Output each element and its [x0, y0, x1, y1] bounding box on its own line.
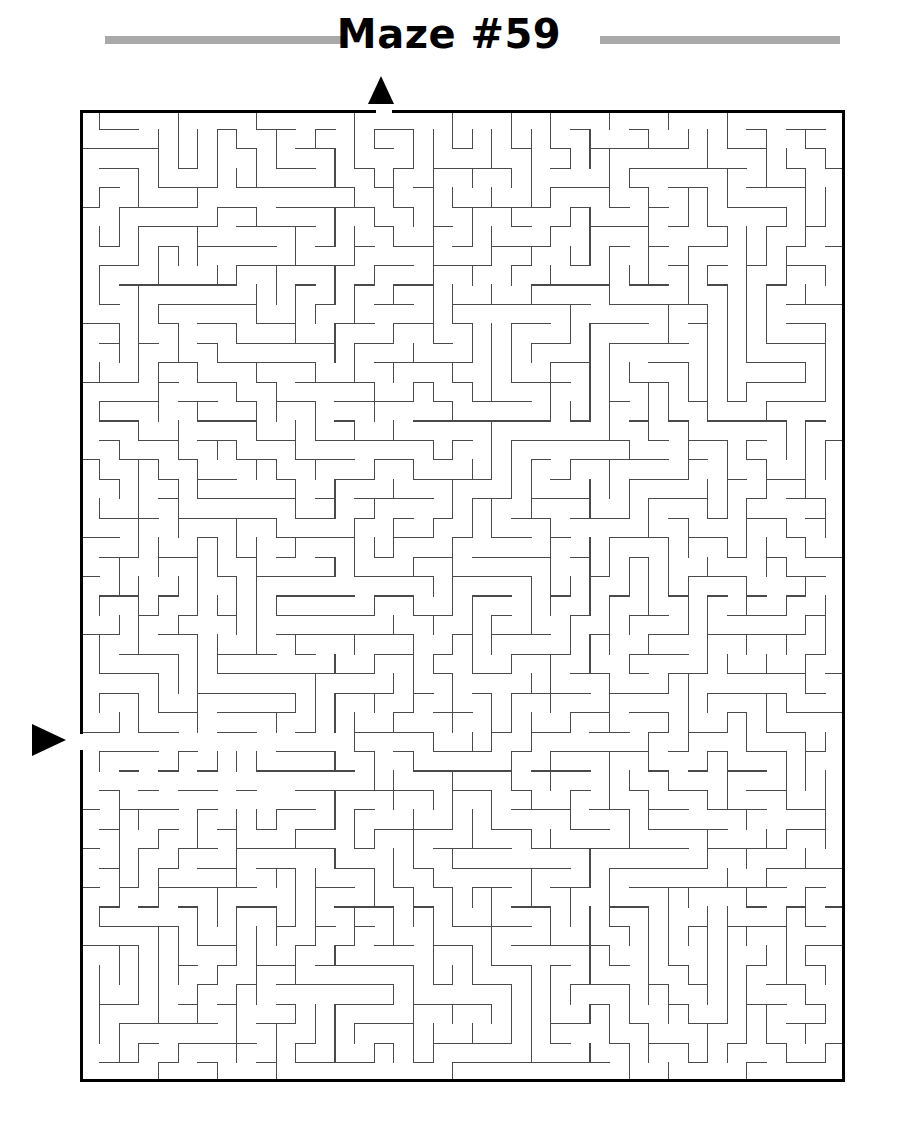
page-header: Maze #59: [0, 0, 898, 78]
maze-border-layer: [80, 110, 845, 1082]
maze-grid: [80, 110, 845, 1082]
entrance-arrow-icon: [368, 76, 394, 104]
maze-container: [80, 110, 845, 1082]
maze-page: Maze #59: [0, 0, 898, 1126]
exit-arrow-icon: [32, 724, 66, 756]
page-title: Maze #59: [0, 12, 898, 56]
maze-wall-layer: [80, 110, 845, 1082]
